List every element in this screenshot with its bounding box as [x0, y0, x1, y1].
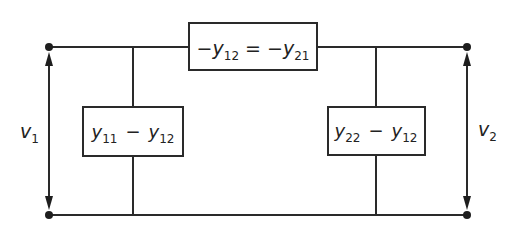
pi-network-diagram: −y12=−y21 y11−y12 y22−y12 v1 v2: [0, 0, 505, 237]
arrow-up-icon: [45, 52, 53, 66]
port1-voltage-arrow: [45, 52, 53, 210]
port2-voltage-arrow: [463, 52, 471, 210]
arrow-down-icon: [45, 196, 53, 210]
terminal-port2-bottom: [463, 211, 471, 219]
port2-voltage-label: v2: [478, 118, 497, 144]
series-admittance: −y12=−y21: [189, 23, 317, 70]
arrow-down-icon: [463, 196, 471, 210]
arrow-up-icon: [463, 52, 471, 66]
terminal-port2-top: [463, 43, 471, 51]
terminal-port1-bottom: [45, 211, 53, 219]
right-shunt-admittance: y22−y12: [328, 107, 425, 155]
left-shunt-admittance: y11−y12: [83, 107, 183, 156]
terminal-port1-top: [45, 43, 53, 51]
port1-voltage-label: v1: [20, 120, 39, 146]
